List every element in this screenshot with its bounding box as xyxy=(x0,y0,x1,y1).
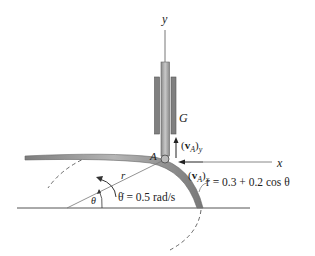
velocity-y-label: (vA)y xyxy=(181,140,202,154)
point-label-A: A xyxy=(150,151,157,162)
dashed-circle-lower xyxy=(170,210,201,250)
velocity-y-arrowhead-icon xyxy=(174,137,179,143)
dashed-circle-upper xyxy=(48,157,88,188)
velocity-x-subscript: A xyxy=(197,175,202,184)
radius-label: r xyxy=(121,170,125,181)
angle-label: θ xyxy=(91,196,96,206)
follower-rod xyxy=(161,62,170,156)
angular-rate-label: θ̇ = 0.5 rad/s xyxy=(118,192,175,204)
diagram-canvas: y G A x (vA)y (vA)x r θ θ̇ = 0.5 rad/s r… xyxy=(0,0,315,256)
guide-sleeve-right xyxy=(171,77,176,134)
guide-sleeve-left xyxy=(155,77,160,134)
diagram-graphics xyxy=(0,0,315,256)
roller-A xyxy=(161,155,169,163)
velocity-y-subscript: A xyxy=(190,145,195,154)
x-axis-label: x xyxy=(277,157,282,169)
velocity-x-arrowhead-icon xyxy=(178,160,185,165)
cam-surface xyxy=(25,154,203,208)
velocity-y-axis-subscript: y xyxy=(199,145,203,154)
y-axis-label: y xyxy=(162,13,167,25)
angular-velocity-arrowhead-icon xyxy=(96,176,103,182)
cam-equation-label: r = 0.3 + 0.2 cos θ xyxy=(206,177,290,189)
collar-label-G: G xyxy=(179,112,188,124)
